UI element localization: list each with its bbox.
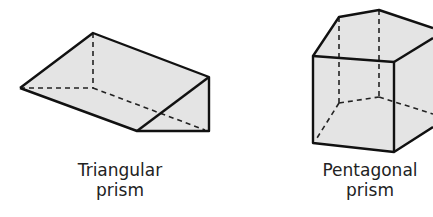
triangular-prism-faces bbox=[20, 33, 209, 131]
pentagonal-prism-label-line1: Pentagonal bbox=[300, 160, 433, 180]
pentagonal-prism-faces bbox=[313, 10, 433, 152]
pentagonal-prism-label-line2: prism bbox=[300, 180, 433, 200]
triangular-prism-label: Triangular prism bbox=[40, 160, 200, 200]
pentagonal-prism-label: Pentagonal prism bbox=[300, 160, 433, 200]
pentagonal-prism bbox=[313, 10, 433, 152]
triangular-prism-label-line2: prism bbox=[40, 180, 200, 200]
triangular-prism-label-line1: Triangular bbox=[40, 160, 200, 180]
triangular-prism bbox=[20, 33, 209, 131]
